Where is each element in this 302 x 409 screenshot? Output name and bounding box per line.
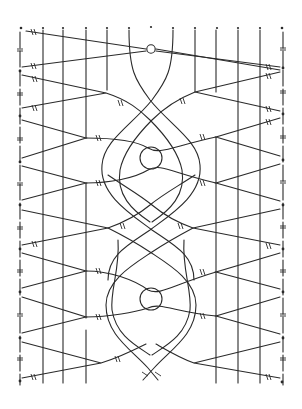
right-passive-lines [107, 30, 260, 383]
right-edge-line [280, 32, 286, 385]
top-pins [20, 26, 284, 29]
left-edge-line [17, 32, 23, 385]
left-worker-zigzags [22, 75, 108, 378]
central-plait-lower [86, 228, 216, 380]
start-circle-marker [147, 45, 155, 53]
central-plait-upper [86, 30, 216, 280]
top-diagonals [22, 31, 280, 70]
right-worker-zigzags [193, 72, 280, 378]
left-passive-lines [43, 30, 86, 383]
lace-diagram [0, 0, 302, 409]
lace-pattern-svg [0, 0, 302, 409]
